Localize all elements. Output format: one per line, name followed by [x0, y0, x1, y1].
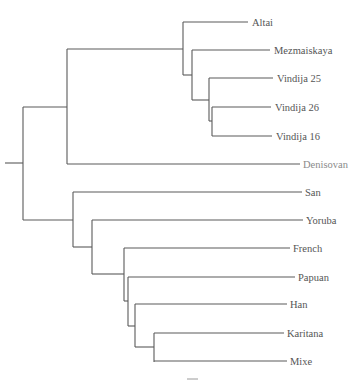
tip-label-altai: Altai — [252, 17, 273, 28]
tip-label-yoruba: Yoruba — [306, 215, 337, 226]
tip-label-denisovan: Denisovan — [303, 159, 349, 170]
tip-label-vindija26: Vindija 26 — [275, 102, 319, 113]
tip-label-french: French — [293, 243, 323, 254]
tip-label-san: San — [305, 187, 322, 198]
tip-label-vindija16: Vindija 16 — [276, 131, 320, 142]
tree-branches — [5, 22, 303, 362]
tip-label-han: Han — [290, 299, 308, 310]
tip-label-vindija25: Vindija 25 — [277, 73, 321, 84]
tip-label-mezmaiskaya: Mezmaiskaya — [274, 45, 333, 56]
tip-label-karitana: Karitana — [287, 328, 323, 339]
tip-label-papuan: Papuan — [298, 272, 330, 283]
phylogenetic-tree: Altai Mezmaiskaya Vindija 25 Vindija 26 … — [0, 0, 357, 382]
tip-label-mixe: Mixe — [290, 356, 313, 367]
